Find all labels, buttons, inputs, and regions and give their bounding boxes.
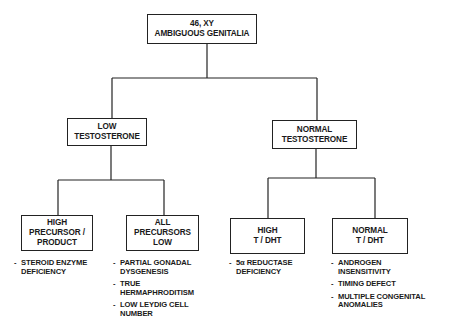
node-line: PRECURSORS (134, 228, 191, 238)
node-line: TESTOSTERONE (74, 132, 140, 142)
node-line: T / DHT (254, 236, 282, 246)
bullet-dash: - (113, 280, 115, 289)
diagnostic-flowchart: 46, XY AMBIGUOUS GENITALIA LOW TESTOSTER… (0, 0, 453, 328)
cause-item: - STEROID ENZYME DEFICIENCY (14, 259, 112, 276)
cause-item: - TRUE HERMAPHRODITISM (113, 280, 223, 297)
root-line-1: 46, XY (190, 19, 214, 29)
root-line-2: AMBIGUOUS GENITALIA (155, 29, 250, 39)
root-node-46xy-ambiguous-genitalia: 46, XY AMBIGUOUS GENITALIA (147, 14, 257, 44)
node-high-t-dht: HIGH T / DHT (230, 218, 305, 254)
node-low-testosterone: LOW TESTOSTERONE (67, 118, 147, 146)
causes-list-high-t-dht: - 5α REDUCTASE DEFICIENCY (229, 259, 327, 280)
bullet-dash: - (331, 259, 333, 268)
causes-list-normal-t-dht: - ANDROGEN INSENSITIVITY - TIMING DEFECT… (331, 259, 451, 314)
node-all-precursors-low: ALL PRECURSORS LOW (126, 215, 199, 251)
node-high-precursor-product: HIGH PRECURSOR / PRODUCT (21, 215, 93, 251)
bullet-dash: - (14, 259, 16, 268)
node-normal-t-dht: NORMAL T / DHT (332, 218, 408, 254)
node-line: PRODUCT (37, 238, 77, 248)
node-line: ALL (155, 218, 171, 228)
cause-item: - 5α REDUCTASE DEFICIENCY (229, 259, 327, 276)
cause-item: - LOW LEYDIG CELL NUMBER (113, 301, 223, 318)
node-line: NORMAL (352, 226, 387, 236)
node-line: LOW (98, 122, 117, 132)
causes-list-high-precursor: - STEROID ENZYME DEFICIENCY (14, 259, 112, 280)
causes-list-all-precursors-low: - PARTIAL GONADAL DYSGENESIS - TRUE HERM… (113, 259, 223, 323)
node-line: NORMAL (297, 125, 332, 135)
node-line: PRECURSOR / (29, 228, 85, 238)
node-line: T / DHT (356, 236, 384, 246)
cause-item: - MULTIPLE CONGENITAL ANOMALIES (331, 293, 451, 310)
node-normal-testosterone: NORMAL TESTOSTERONE (272, 120, 357, 149)
bullet-dash: - (113, 259, 115, 268)
cause-item: - TIMING DEFECT (331, 280, 451, 289)
node-line: HIGH (257, 226, 277, 236)
node-line: TESTOSTERONE (282, 135, 348, 145)
bullet-dash: - (229, 259, 231, 268)
bullet-dash: - (113, 301, 115, 310)
node-line: LOW (153, 238, 172, 248)
node-line: HIGH (47, 218, 67, 228)
bullet-dash: - (331, 293, 333, 302)
bullet-dash: - (331, 280, 333, 289)
cause-item: - ANDROGEN INSENSITIVITY (331, 259, 451, 276)
cause-item: - PARTIAL GONADAL DYSGENESIS (113, 259, 223, 276)
